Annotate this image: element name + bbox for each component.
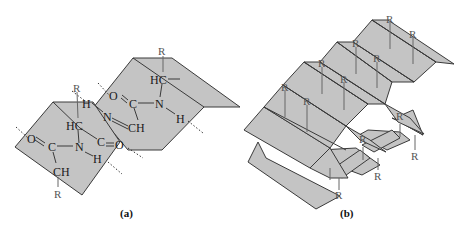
- r-label: R: [409, 28, 417, 40]
- pleat-face: [385, 104, 424, 134]
- atom-h: H: [82, 97, 91, 111]
- r-label: R: [374, 170, 382, 182]
- panel-b: R R R R R R R R R R R R R (b): [244, 13, 454, 220]
- beta-sheet-figure: R HC O C N H H N CH R HC C O O C N H CH …: [0, 0, 465, 228]
- atom-ch: CH: [128, 121, 145, 135]
- panel-a: R HC O C N H H N CH R HC C O O C N H CH …: [15, 45, 240, 220]
- atom-h: H: [176, 112, 185, 126]
- atom-ch: CH: [53, 165, 70, 179]
- r-label: R: [318, 57, 326, 69]
- r-label: R: [303, 95, 311, 107]
- hbond-dots: [188, 121, 203, 133]
- atom-hc: HC: [150, 73, 167, 87]
- r-label: R: [352, 37, 360, 49]
- atom-hc: HC: [66, 119, 83, 133]
- atom-c: C: [48, 140, 56, 154]
- atom-n: N: [155, 97, 164, 111]
- panel-a-caption: (a): [120, 207, 133, 220]
- atom-c: C: [97, 135, 105, 149]
- r-label: R: [373, 52, 381, 64]
- r-label: R: [411, 150, 419, 162]
- r-label: R: [359, 133, 367, 145]
- atom-o: O: [27, 132, 36, 146]
- atom-c: C: [129, 97, 137, 111]
- atom-n: N: [103, 110, 112, 124]
- r-label: R: [386, 13, 394, 25]
- panel-b-caption: (b): [340, 207, 354, 220]
- atom-o: O: [109, 89, 118, 103]
- r-label: R: [281, 81, 289, 93]
- atom-h: H: [93, 152, 102, 166]
- r-label: R: [396, 110, 404, 122]
- atom-r: R: [54, 188, 62, 200]
- atom-o: O: [115, 138, 124, 152]
- atom-r: R: [73, 82, 81, 94]
- r-label: R: [340, 73, 348, 85]
- atom-n: N: [75, 140, 84, 154]
- r-label: R: [335, 189, 343, 201]
- hbond-dots: [108, 162, 122, 174]
- atom-r: R: [158, 45, 166, 57]
